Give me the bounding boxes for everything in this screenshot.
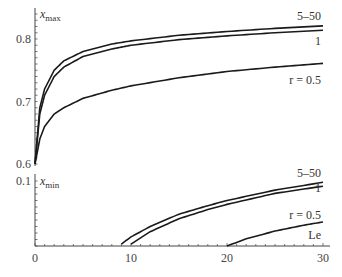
x-axis-title: Le: [308, 228, 321, 242]
chart: 0.80.70.6xmax5–501r = 0.5 0.10102030xmin…: [0, 0, 342, 277]
curve-label: r = 0.5: [289, 208, 321, 222]
curve-label: 1: [315, 34, 321, 48]
curve-top-2: [35, 63, 323, 164]
x-tick-label: 0: [32, 251, 38, 265]
curve-label: 5–50: [297, 166, 321, 180]
curve-label: r = 0.5: [289, 73, 321, 87]
x-tick-label: 30: [317, 251, 329, 265]
y-tick-label: 0.1: [16, 174, 31, 188]
x-tick-label: 10: [125, 251, 137, 265]
x-tick-label: 20: [221, 251, 233, 265]
top-panel-xmax: 0.80.70.6xmax5–501r = 0.5: [16, 7, 323, 171]
y-tick-label: 0.8: [16, 32, 31, 46]
y-tick-label: 0.7: [16, 95, 31, 109]
y-axis-title-xmin: xmin: [39, 174, 60, 190]
curve-top-1: [35, 30, 323, 164]
curve-label: 1: [315, 181, 321, 195]
curve-top-0: [35, 26, 323, 164]
y-tick-label: 0.6: [16, 157, 31, 171]
y-axis-title-xmax: xmax: [39, 7, 61, 23]
bottom-panel-xmin: 0.10102030xminLe5–501r = 0.5: [16, 166, 330, 265]
curve-label: 5–50: [297, 9, 321, 23]
